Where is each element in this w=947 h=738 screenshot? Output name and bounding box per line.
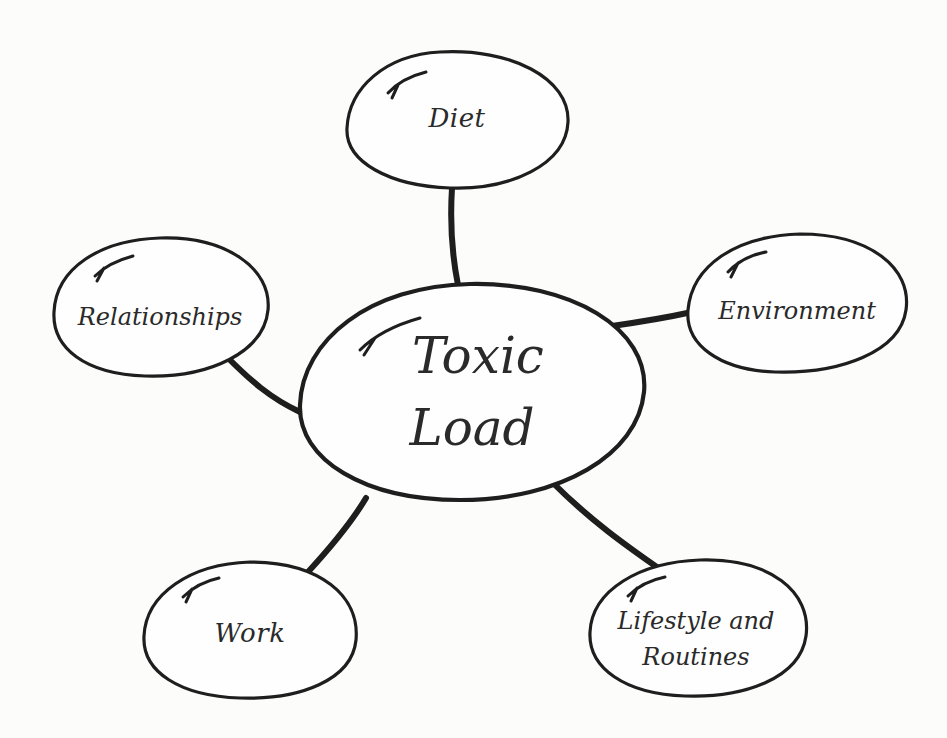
node-relationships-label: Relationships [77,303,243,331]
node-lifestyle-routines: Lifestyle and Routines [590,560,807,696]
node-center-toxic-load: Toxic Load [300,284,644,500]
connector-relationships [228,358,300,412]
node-diet-label: Diet [428,103,486,133]
center-bubble [300,284,644,500]
node-work: Work [144,562,356,698]
connector-work [308,498,366,572]
node-diet: Diet [347,52,568,188]
mind-map-diagram: Diet Relationships Environment Work Life… [0,0,947,738]
node-environment: Environment [688,234,907,372]
node-lifestyle-label-line2: Routines [641,643,749,671]
center-label-line1: Toxic [412,327,544,385]
center-label-line2: Load [408,399,534,457]
node-work-label: Work [215,618,286,648]
connector-lifestyle [552,482,664,572]
node-lifestyle-label-line1: Lifestyle and [617,607,775,635]
connector-diet [451,188,458,285]
node-environment-label: Environment [717,297,876,325]
connector-environment [612,312,692,326]
node-relationships: Relationships [54,238,268,376]
